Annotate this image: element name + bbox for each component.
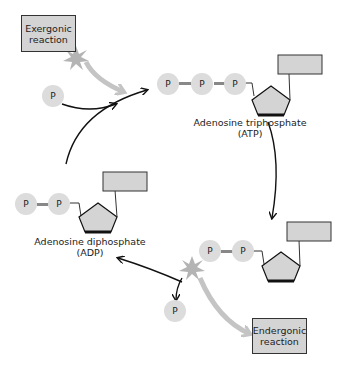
- adp-label: Adenosine diphosphate (ADP): [20, 236, 160, 258]
- atp-phosphate-3: P: [224, 73, 246, 95]
- phosphate-free-in: P: [42, 85, 64, 107]
- adp-phosphate-2: P: [48, 193, 70, 215]
- energy-arrow-out: [200, 278, 250, 334]
- exergonic-label-line2: reaction: [25, 34, 72, 45]
- hydrolysis-phosphate-2: P: [232, 240, 254, 262]
- atp-label: Adenosine triphosphate (ATP): [180, 117, 320, 139]
- hydrolysis-to-adp-arrow: [118, 258, 182, 282]
- energy-arrow-in: [86, 62, 124, 92]
- adp-phosphate-1: P: [15, 193, 37, 215]
- atp-phosphate-1: P: [157, 73, 179, 95]
- exergonic-reaction-box: Exergonicreaction: [21, 15, 76, 52]
- endergonic-label-line1: Endergonic: [253, 325, 306, 336]
- adp-to-atp-arrow: [66, 90, 147, 164]
- hydrolysis-phosphate-1: P: [199, 240, 221, 262]
- atp-phosphate-2: P: [191, 73, 213, 95]
- adp-abbr: (ADP): [20, 247, 160, 258]
- phosphate-free-out: P: [164, 300, 186, 322]
- atp-name: Adenosine triphosphate: [180, 117, 320, 128]
- endergonic-reaction-box: Endergonicreaction: [252, 318, 307, 354]
- energy-burst-icon-bottom: [179, 256, 205, 280]
- endergonic-label-line2: reaction: [253, 336, 306, 347]
- exergonic-label-line1: Exergonic: [25, 23, 72, 34]
- atp-abbr: (ATP): [180, 128, 320, 139]
- adp-name: Adenosine diphosphate: [20, 236, 160, 247]
